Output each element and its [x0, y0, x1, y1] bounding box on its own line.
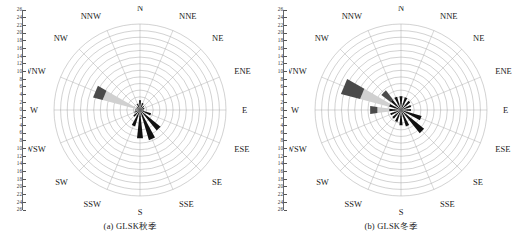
- axis-tick-label: 2: [19, 100, 22, 105]
- axis-tick-mark: [23, 71, 26, 72]
- compass-label-NE: NE: [212, 33, 223, 43]
- compass-label-W: W: [291, 105, 299, 115]
- axis-tick-label: 12: [17, 154, 22, 159]
- axis-tick-a: 6: [4, 130, 26, 137]
- axis-tick-mark: [284, 156, 287, 157]
- axis-tick-label: 8: [280, 77, 283, 82]
- axis-tick-a: 14: [4, 53, 26, 60]
- compass-label-S: S: [138, 207, 143, 217]
- axis-tick-mark: [23, 210, 26, 211]
- compass-label-N: N: [398, 6, 404, 13]
- axis-tick-a: 8: [4, 76, 26, 83]
- axis-tick-mark: [284, 10, 287, 11]
- axis-tick-label: 2: [280, 100, 283, 105]
- compass-label-NW: NW: [315, 33, 329, 43]
- figure-root: 2624222018161412108642024681012141618202…: [0, 0, 522, 251]
- axis-tick-b: 26: [265, 207, 287, 214]
- axis-tick-label: 10: [278, 69, 283, 74]
- axis-tick-label: 22: [17, 23, 22, 28]
- axis-tick-mark: [23, 102, 26, 103]
- axis-tick-label: 6: [19, 84, 22, 89]
- grid-spoke: [368, 110, 401, 189]
- axis-tick-label: 24: [278, 15, 283, 20]
- axis-tick-label: 6: [19, 130, 22, 135]
- compass-label-WNW: WNW: [28, 66, 46, 76]
- axis-tick-a: 24: [4, 199, 26, 206]
- axis-tick-b: 24: [265, 14, 287, 21]
- axis-tick-b: 10: [265, 145, 287, 152]
- compass-label-W: W: [30, 105, 38, 115]
- axis-tick-label: 4: [280, 123, 283, 128]
- axis-tick-label: 12: [278, 154, 283, 159]
- compass-label-SSW: SSW: [344, 199, 361, 209]
- axis-tick-label: 16: [17, 46, 22, 51]
- compass-label-NNW: NNW: [342, 11, 362, 21]
- axis-tick-label: 4: [19, 123, 22, 128]
- compass-label-SSE: SSE: [179, 199, 194, 209]
- axis-tick-a: 12: [4, 153, 26, 160]
- axis-tick-mark: [284, 86, 287, 87]
- axis-tick-a: 24: [4, 14, 26, 21]
- axis-tick-mark: [284, 186, 287, 187]
- grid-spoke: [140, 31, 173, 110]
- axis-tick-label: 10: [17, 146, 22, 151]
- axis-tick-a: 16: [4, 45, 26, 52]
- axis-tick-label: 4: [19, 92, 22, 97]
- axis-tick-label: 26: [278, 7, 283, 12]
- axis-tick-mark: [23, 10, 26, 11]
- axis-tick-label: 26: [278, 207, 283, 212]
- axis-tick-mark: [284, 33, 287, 34]
- axis-tick-label: 8: [19, 77, 22, 82]
- axis-tick-b: 22: [265, 191, 287, 198]
- axis-tick-a: 26: [4, 207, 26, 214]
- axis-tick-b: 12: [265, 153, 287, 160]
- axis-tick-mark: [23, 25, 26, 26]
- axis-tick-a: 2: [4, 114, 26, 121]
- axis-tick-label: 18: [278, 177, 283, 182]
- axis-tick-mark: [284, 40, 287, 41]
- grid-spoke: [140, 49, 201, 110]
- axis-tick-mark: [23, 163, 26, 164]
- axis-tick-label: 20: [17, 30, 22, 35]
- axis-tick-mark: [284, 94, 287, 95]
- axis-tick-b: 4: [265, 122, 287, 129]
- panel-b-caption: (b) GLSK冬季: [261, 219, 522, 231]
- axis-tick-b: 2: [265, 114, 287, 121]
- axis-tick-b: 16: [265, 45, 287, 52]
- axis-tick-b: 14: [265, 53, 287, 60]
- axis-tick-mark: [284, 125, 287, 126]
- axis-tick-a: 10: [4, 145, 26, 152]
- compass-label-NNW: NNW: [81, 11, 101, 21]
- axis-tick-label: 0: [19, 107, 22, 112]
- axis-tick-mark: [23, 40, 26, 41]
- axis-tick-a: 2: [4, 99, 26, 106]
- axis-tick-b: 16: [265, 168, 287, 175]
- grid-spoke: [140, 77, 219, 110]
- radial-axis-b: 2624222018161412108642024681012141618202…: [265, 10, 287, 210]
- axis-tick-mark: [23, 156, 26, 157]
- panel-a-caption: (a) GLSK秋季: [0, 219, 261, 231]
- axis-tick-label: 16: [278, 169, 283, 174]
- axis-tick-mark: [284, 194, 287, 195]
- axis-tick-a: 16: [4, 168, 26, 175]
- axis-tick-label: 14: [278, 161, 283, 166]
- axis-tick-b: 18: [265, 37, 287, 44]
- panel-a: 2624222018161412108642024681012141618202…: [0, 0, 261, 251]
- axis-tick-b: 22: [265, 22, 287, 29]
- windrose-b: NNNENEENEEESESESSESSSWSWWSWWWNWNWNNW: [289, 6, 514, 218]
- axis-tick-mark: [284, 110, 287, 111]
- axis-tick-label: 8: [19, 138, 22, 143]
- axis-tick-label: 16: [278, 46, 283, 51]
- axis-tick-a: 4: [4, 122, 26, 129]
- grid-spoke: [79, 110, 140, 171]
- axis-tick-b: 12: [265, 60, 287, 67]
- axis-tick-label: 20: [278, 30, 283, 35]
- axis-tick-label: 10: [278, 146, 283, 151]
- windrose-petal-W: [377, 107, 389, 113]
- axis-tick-label: 12: [278, 61, 283, 66]
- axis-tick-a: 18: [4, 37, 26, 44]
- axis-tick-label: 0: [280, 107, 283, 112]
- compass-label-NNE: NNE: [179, 11, 196, 21]
- axis-tick-mark: [284, 171, 287, 172]
- axis-tick-mark: [23, 94, 26, 95]
